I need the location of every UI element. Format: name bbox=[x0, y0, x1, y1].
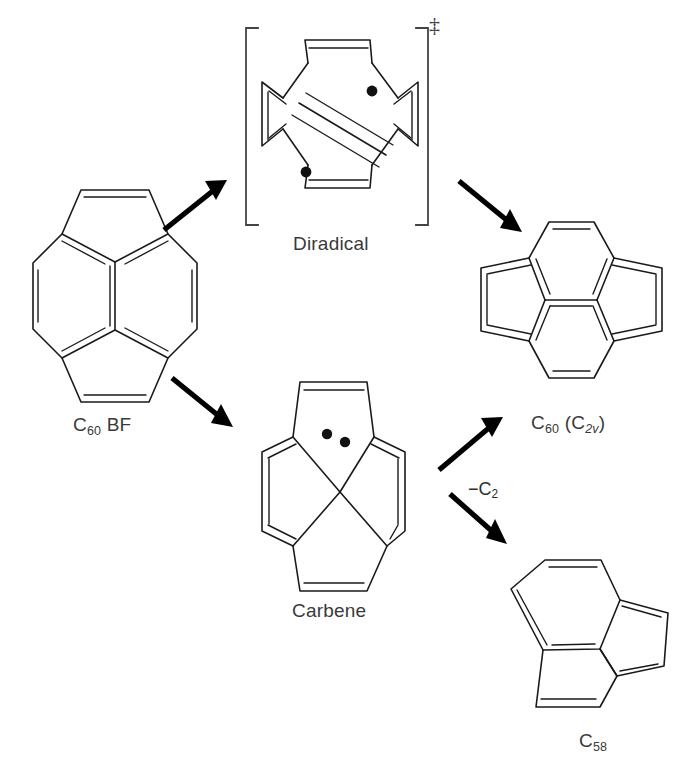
reaction-arrows bbox=[0, 0, 686, 780]
label-arrow-minus-c2: −C2 bbox=[468, 479, 498, 500]
arrow-diradical-to-c60 bbox=[459, 181, 522, 232]
label-c60-c2v: C60 (C2v) bbox=[531, 412, 605, 434]
arrow-carbene-to-c58 bbox=[450, 494, 507, 544]
arrow-reactant-to-diradical bbox=[164, 180, 227, 230]
arrow-carbene-to-c60 bbox=[439, 417, 503, 470]
label-c60bf: C60 BF bbox=[73, 414, 131, 436]
label-c58: C58 bbox=[579, 730, 607, 752]
label-diradical: Diradical bbox=[293, 233, 369, 255]
reaction-scheme-figure: C60 BF Diradical ‡ Carbene C60 (C2v) C58… bbox=[0, 0, 686, 780]
label-transition-state-dagger: ‡ bbox=[429, 14, 440, 36]
arrow-reactant-to-carbene bbox=[172, 378, 233, 427]
label-carbene: Carbene bbox=[292, 600, 366, 622]
